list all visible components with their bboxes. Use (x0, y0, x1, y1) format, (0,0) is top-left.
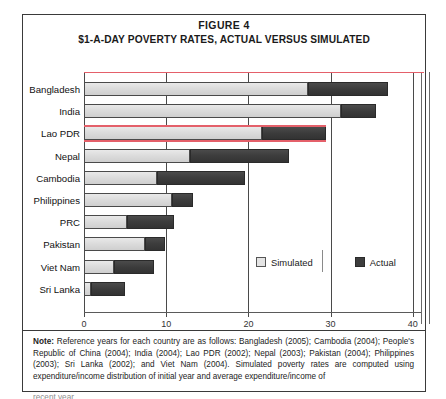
figure-number: FIGURE 4 (22, 18, 426, 32)
figure-title: $1-A-DAY POVERTY RATES, ACTUAL VERSUS SI… (22, 32, 426, 47)
category-label-india: India (8, 106, 80, 117)
category-label-cambodia: Cambodia (8, 173, 80, 184)
category-label-nepal: Nepal (8, 151, 80, 162)
chart-legend: Simulated Actual (256, 252, 406, 272)
legend-divider (322, 250, 323, 272)
category-label-sri-lanka: Sri Lanka (8, 284, 80, 295)
category-label-prc: PRC (8, 217, 80, 228)
category-label-viet-nam: Viet Nam (8, 262, 80, 273)
category-label-bangladesh: Bangladesh (8, 84, 80, 95)
category-label-philippines: Philippines (8, 195, 80, 206)
plot-right-rule-2 (429, 72, 430, 324)
legend-label-simulated: Simulated (271, 257, 313, 268)
category-label-pakistan: Pakistan (8, 239, 80, 250)
note-body: Reference years for each country are as … (33, 337, 414, 381)
category-label-lao-pdr: Lao PDR (8, 128, 80, 139)
note-label: Note: (33, 337, 54, 346)
legend-item-actual: Actual (355, 257, 396, 268)
figure-title-block: FIGURE 4 $1-A-DAY POVERTY RATES, ACTUAL … (22, 18, 426, 47)
legend-swatch-simulated-icon (256, 257, 266, 267)
legend-label-actual: Actual (370, 257, 396, 268)
legend-swatch-actual-icon (355, 257, 365, 267)
note-separator (22, 330, 426, 331)
figure-note: Note: Reference years for each country a… (33, 336, 414, 382)
note-cut-off-line: recent year. (33, 392, 414, 399)
legend-item-simulated: Simulated (256, 257, 313, 268)
